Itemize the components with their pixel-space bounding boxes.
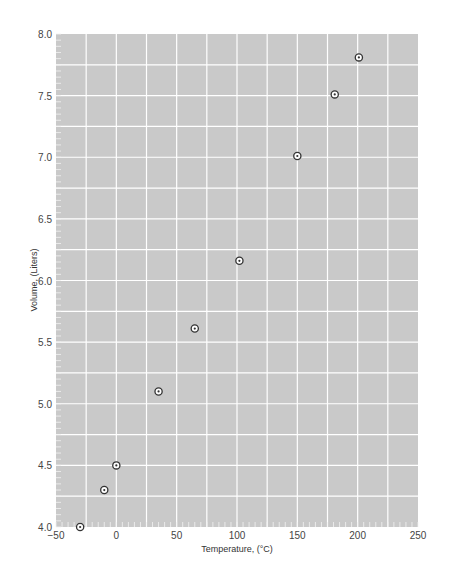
data-point [294,152,301,159]
x-tick-label: 250 [410,530,427,541]
x-tick-label: 150 [289,530,306,541]
data-point [355,54,362,61]
data-point [101,486,108,493]
x-axis-title: Temperature, (°C) [201,544,273,554]
x-tick-label: 100 [229,530,246,541]
data-point [236,257,243,264]
y-tick-label: 7.0 [38,152,52,163]
y-tick-label: 4.5 [38,460,52,471]
data-point [331,91,338,98]
y-tick-label: 8.0 [38,29,52,40]
x-axis-tick-labels: −50050100150200250 [48,530,427,541]
y-tick-label: 6.5 [38,214,52,225]
data-point [191,325,198,332]
data-point [155,388,162,395]
y-axis-title: Volume, (Liters) [29,248,39,311]
y-tick-label: 7.5 [38,91,52,102]
y-tick-label: 4.0 [38,522,52,533]
x-tick-label: 0 [114,530,120,541]
x-tick-label: 50 [171,530,183,541]
y-tick-label: 5.5 [38,337,52,348]
data-point [113,462,120,469]
data-point [77,523,84,530]
scatter-chart: −50050100150200250 4.04.55.05.56.06.57.0… [0,0,450,583]
y-tick-label: 5.0 [38,399,52,410]
x-tick-label: 200 [349,530,366,541]
y-tick-label: 6.0 [38,276,52,287]
y-axis-tick-labels: 4.04.55.05.56.06.57.07.58.0 [38,29,52,533]
